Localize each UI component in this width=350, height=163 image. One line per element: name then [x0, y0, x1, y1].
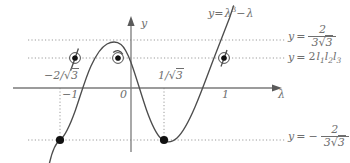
upper-line-numerator: 2 [308, 24, 336, 36]
circled-point-middle-dot [115, 55, 120, 60]
filled-point-left [56, 136, 64, 144]
lambda-axis-label: λ [278, 89, 285, 100]
tick-1root3-sqrt-symbol: √ [169, 69, 176, 82]
tick-1root3-root: 3 [176, 68, 184, 82]
y-axis-arrow [127, 16, 134, 26]
lower-line-den-root: 3 [338, 135, 346, 149]
curve-equation-label: y=λ3−λ [208, 6, 253, 19]
level-line-y: y [288, 52, 294, 63]
level-line-coefficient: 2 [308, 50, 315, 63]
tick-label-one-over-sqrt3: 1/√3 [158, 70, 184, 81]
curve-eq-equals: = [214, 7, 223, 20]
tick-label-neg-one: −1 [62, 89, 78, 100]
cubic-function-figure: y=λ3−λ y λ y = 2 3√3 y = 2l1l2l3 y = − 2… [0, 0, 350, 163]
lower-line-denominator: 3√3 [321, 136, 349, 150]
level-line-expression: 2l1l2l3 [308, 51, 341, 65]
y-axis-label: y [141, 18, 147, 29]
filled-point-min [160, 136, 168, 144]
lower-line-numerator: 2 [321, 124, 349, 136]
upper-line-denominator: 3√3 [308, 36, 336, 50]
lower-line-sqrt-symbol: √ [331, 136, 338, 149]
upper-line-fraction: 2 3√3 [308, 24, 336, 49]
tick-label-zero: 0 [120, 89, 127, 100]
circled-point-left-dot [72, 55, 77, 60]
lower-line-den-coef: 3 [324, 136, 331, 149]
upper-line-den-root: 3 [325, 35, 333, 49]
level-line-label: y = 2l1l2l3 [288, 51, 341, 65]
curve-eq-minus: − [236, 7, 245, 20]
upper-line-equals: = [296, 31, 305, 42]
upper-line-y: y [288, 31, 294, 42]
level-line-equals: = [296, 52, 305, 63]
lower-line-minus: − [308, 131, 317, 142]
level-line-l3-subscript: 3 [337, 56, 342, 65]
tick-neg2root3-sqrt-symbol: √ [64, 69, 71, 82]
lower-line-equals: = [296, 131, 305, 142]
lower-line-y: y [288, 131, 294, 142]
circled-point-right-dot [221, 55, 226, 60]
tick-neg2root3-root: 3 [71, 68, 79, 82]
lower-line-fraction: 2 3√3 [321, 124, 349, 149]
tick-label-one: 1 [222, 89, 229, 100]
tick-neg2root3-prefix: −2/ [44, 69, 64, 82]
upper-line-label: y = 2 3√3 [288, 24, 336, 49]
curve-eq-lambda: λ [246, 7, 253, 20]
lower-line-label: y = − 2 3√3 [288, 124, 349, 149]
tick-label-neg-2-over-sqrt3: −2/√3 [44, 70, 79, 81]
tick-1root3-prefix: 1/ [158, 69, 169, 82]
